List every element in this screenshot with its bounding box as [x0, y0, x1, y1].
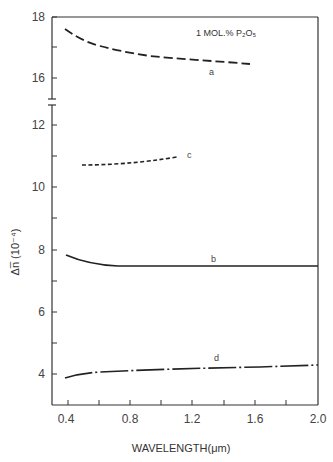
y-tick-label: 8 [38, 243, 45, 257]
curve-label-d: d [214, 353, 219, 363]
x-tick-label: 1.6 [247, 412, 264, 426]
curve-label-c: c [187, 150, 192, 160]
dispersion-chart: 18 16 12 10 8 6 4 0.4 0.8 1.2 1.6 2.0 WA… [0, 0, 333, 462]
curve-label-b: b [211, 254, 216, 264]
x-tick-label: 1.2 [184, 412, 201, 426]
y-tick-label: 12 [32, 118, 46, 132]
composition-annotation: 1 MOL.% P₂O₅ [196, 28, 257, 38]
curve-d [65, 365, 318, 378]
x-tick-label: 2.0 [310, 412, 327, 426]
y-tick-label: 4 [38, 367, 45, 381]
y-axis-label: Δn̅ (10⁻⁴) [9, 229, 21, 276]
x-axis-label: WAVELENGTH(μm) [132, 442, 231, 454]
plot-frame [52, 17, 318, 405]
x-tick-label: 0.8 [122, 412, 139, 426]
x-ticks [68, 400, 286, 405]
y-tick-label: 16 [32, 71, 46, 85]
curve-b [66, 255, 318, 266]
axis-break [48, 99, 56, 105]
y-tick-label: 10 [32, 180, 46, 194]
x-tick-labels: 0.4 0.8 1.2 1.6 2.0 [58, 412, 327, 426]
x-tick-label: 0.4 [58, 412, 75, 426]
y-tick-label: 18 [32, 10, 46, 24]
y-tick-label: 6 [38, 305, 45, 319]
y-ticks [52, 17, 57, 374]
curve-label-a: a [209, 67, 214, 77]
y-tick-labels: 18 16 12 10 8 6 4 [32, 10, 46, 381]
curve-c [82, 157, 177, 165]
